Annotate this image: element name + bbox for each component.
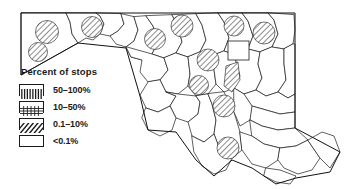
legend-label-10-50: 10–50% <box>53 102 85 112</box>
legend-row: 10–50% <box>19 100 139 114</box>
legend-row: <0.1% <box>19 134 139 148</box>
marker-0.1-10-percent <box>224 16 244 36</box>
marker-0.1-10-percent <box>253 22 275 44</box>
marker-0.1-10-percent <box>171 15 193 37</box>
marker-0.1-10-percent <box>29 43 48 62</box>
legend-title: Percent of stops <box>21 66 139 77</box>
marker-0.1-10-percent <box>145 29 166 50</box>
legend-label-50-100: 50–100% <box>53 85 90 95</box>
legend-label-0.1-10: 0.1–10% <box>53 119 88 129</box>
legend-row: 0.1–10% <box>19 117 139 131</box>
marker-0.1-10-percent <box>36 21 59 44</box>
legend-row: 50–100% <box>19 83 139 97</box>
marker-0.1-10-percent <box>82 17 103 38</box>
swatch-blank <box>19 135 44 147</box>
legend-label-under-0.1: <0.1% <box>53 136 78 146</box>
marker-less-than-0.1-percent <box>228 41 249 60</box>
maryland-stops-map-figure: Percent of stops 50 <box>0 0 361 189</box>
marker-0.1-10-percent <box>197 49 219 71</box>
marker-0.1-10-percent <box>217 137 239 159</box>
legend: Percent of stops 50 <box>19 66 139 151</box>
marker-0.1-10-percent <box>213 95 235 117</box>
swatch-diagonal-hatch <box>19 118 44 130</box>
swatch-cross-hatch <box>19 101 44 113</box>
swatch-vertical-lines <box>19 84 44 96</box>
marker-0.1-10-percent <box>190 76 209 95</box>
